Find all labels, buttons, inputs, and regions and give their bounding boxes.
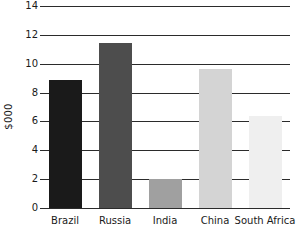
bar-chart: $000 02468101214 BrazilRussiaIndiaChinaS…	[0, 0, 297, 232]
y-tick-label: 8	[0, 88, 38, 98]
y-tick-label: 6	[0, 116, 38, 126]
y-tick-label: 0	[0, 203, 38, 213]
y-tick-label: 2	[0, 174, 38, 184]
y-tick-label: 12	[0, 30, 38, 40]
gridline	[40, 35, 290, 36]
bar	[149, 179, 182, 208]
bar	[99, 43, 132, 208]
bar	[199, 69, 232, 208]
x-tick-label: South Africa	[235, 216, 296, 226]
x-tick-label: India	[153, 216, 178, 226]
axis-baseline	[40, 208, 290, 209]
plot-area	[40, 6, 290, 208]
y-tick-label: 4	[0, 145, 38, 155]
x-tick-label: Russia	[99, 216, 131, 226]
x-tick-label: China	[201, 216, 230, 226]
x-tick-label: Brazil	[51, 216, 79, 226]
bar	[249, 116, 282, 208]
bar	[49, 80, 82, 208]
y-tick-label: 10	[0, 59, 38, 69]
y-tick-label: 14	[0, 1, 38, 11]
gridline	[40, 6, 290, 7]
gridline	[40, 64, 290, 65]
